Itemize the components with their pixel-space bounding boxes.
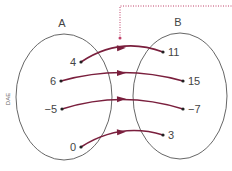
arrowhead-icon — [117, 129, 126, 136]
arrowheads — [117, 45, 126, 136]
set-b-element: 15 — [188, 75, 200, 87]
dot-a-0 — [79, 145, 82, 148]
set-b-label: B — [174, 16, 181, 28]
dot-a-6 — [59, 79, 62, 82]
mapping-diagram: A B DAE 4 6 −5 0 11 15 −7 3 — [0, 0, 232, 171]
set-b-element: 11 — [168, 46, 179, 58]
side-label: DAE — [5, 93, 11, 105]
set-b-ellipse — [133, 33, 227, 159]
set-a-element: 4 — [70, 56, 76, 68]
dot-a-4 — [79, 60, 82, 63]
set-a-element: 6 — [50, 75, 56, 87]
dot-b-neg7 — [181, 107, 184, 110]
set-a-label: A — [58, 17, 66, 29]
arrowhead-icon — [117, 96, 126, 102]
arrowhead-icon — [117, 70, 126, 76]
set-a-element: 0 — [70, 141, 76, 153]
set-a-element: −5 — [44, 103, 57, 115]
dot-b-11 — [161, 50, 164, 53]
dot-a-neg5 — [60, 107, 63, 110]
dot-b-15 — [181, 79, 184, 82]
set-b-element: 3 — [168, 129, 174, 141]
dot-b-3 — [161, 133, 164, 136]
arrow-neg5-to-neg7 — [62, 100, 183, 110]
set-b-element: −7 — [188, 103, 201, 115]
leader-endpoint-dot — [119, 37, 122, 40]
